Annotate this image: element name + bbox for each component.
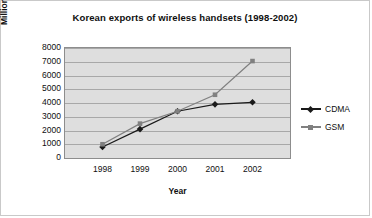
y-tick-label: 8000 xyxy=(42,42,61,52)
legend-key-gsm-icon xyxy=(301,122,321,132)
x-axis-tick-labels: 19981999200020012002 xyxy=(64,164,291,178)
data-point-cdma-2002 xyxy=(249,99,256,106)
y-axis-title: Million dollars (US $) xyxy=(0,0,9,43)
y-tick-label: 1000 xyxy=(42,138,61,148)
chart-figure: Korean exports of wireless handsets (199… xyxy=(0,0,370,216)
legend-label: GSM xyxy=(325,122,344,132)
y-tick-label: 0 xyxy=(56,152,61,162)
x-tick-label: 2002 xyxy=(243,164,262,174)
gridline xyxy=(65,158,290,159)
y-tick-label: 5000 xyxy=(42,83,61,93)
chart-legend: CDMAGSM xyxy=(301,100,365,136)
data-point-gsm-2002 xyxy=(250,59,255,64)
data-point-cdma-1999 xyxy=(137,126,144,133)
legend-item-cdma[interactable]: CDMA xyxy=(301,100,365,118)
x-axis-title: Year xyxy=(64,186,291,196)
data-point-cdma-2001 xyxy=(212,101,219,108)
chart-title: Korean exports of wireless handsets (199… xyxy=(1,12,369,23)
y-tick-label: 3000 xyxy=(42,111,61,121)
x-tick-label: 1999 xyxy=(131,164,150,174)
y-tick-label: 7000 xyxy=(42,56,61,66)
plot-area xyxy=(64,47,291,159)
y-tick-label: 2000 xyxy=(42,125,61,135)
series-line-gsm xyxy=(103,61,253,144)
y-axis-tick-labels: 800070006000500040003000200010000 xyxy=(21,41,61,165)
series-lines xyxy=(65,48,290,158)
x-tick-label: 2000 xyxy=(168,164,187,174)
x-tick-label: 2001 xyxy=(206,164,225,174)
data-point-gsm-1999 xyxy=(138,121,143,126)
data-point-gsm-1998 xyxy=(100,142,105,147)
y-tick-label: 4000 xyxy=(42,97,61,107)
legend-label: CDMA xyxy=(325,104,350,114)
data-point-gsm-2000 xyxy=(175,109,180,114)
y-tick-label: 6000 xyxy=(42,70,61,80)
legend-key-cdma-icon xyxy=(301,104,321,114)
x-tick-label: 1998 xyxy=(93,164,112,174)
legend-item-gsm[interactable]: GSM xyxy=(301,118,365,136)
data-point-gsm-2001 xyxy=(213,92,218,97)
